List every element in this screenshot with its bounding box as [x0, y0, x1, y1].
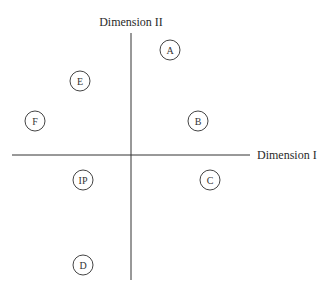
point-label: E	[77, 76, 83, 87]
point-b: B	[188, 111, 208, 131]
point-e: E	[70, 71, 90, 91]
y-axis-label: Dimension II	[99, 15, 163, 29]
x-axis-label: Dimension I	[257, 148, 317, 162]
point-a: A	[160, 40, 180, 60]
point-label: IP	[79, 175, 88, 186]
point-label: F	[32, 116, 38, 127]
point-label: A	[166, 45, 174, 56]
perceptual-map: Dimension II Dimension I AEFBIPCD	[0, 0, 325, 295]
point-label: D	[79, 260, 86, 271]
point-f: F	[25, 111, 45, 131]
point-ip: IP	[73, 170, 93, 190]
point-c: C	[200, 170, 220, 190]
point-label: C	[207, 175, 214, 186]
point-label: B	[195, 116, 202, 127]
point-d: D	[73, 255, 93, 275]
